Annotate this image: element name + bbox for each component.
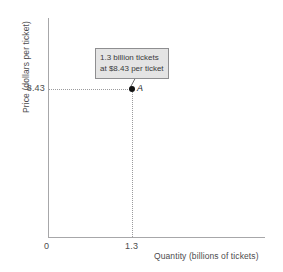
x-axis-tick-label-origin: 0 — [44, 241, 49, 251]
vertical-guide-line — [132, 90, 133, 237]
callout-line-2: at $8.43 per ticket — [100, 63, 164, 74]
x-axis-line — [48, 237, 265, 238]
callout-box: 1.3 billion tickets at $8.43 per ticket — [95, 48, 169, 79]
callout-line-1: 1.3 billion tickets — [100, 52, 164, 63]
x-axis-title: Quantity (billions of tickets) — [154, 251, 259, 261]
y-axis-title: Price (dollars per ticket) — [21, 12, 31, 122]
chart-canvas: Price (dollars per ticket) Quantity (bil… — [0, 0, 283, 272]
x-axis-tick-label-quantity: 1.3 — [125, 241, 138, 251]
data-point-a-marker — [129, 86, 135, 92]
y-axis-line — [48, 18, 49, 238]
horizontal-guide-line — [49, 89, 132, 90]
y-axis-tick-label-843: 8.43 — [24, 83, 45, 93]
data-point-a-label: A — [137, 83, 143, 93]
